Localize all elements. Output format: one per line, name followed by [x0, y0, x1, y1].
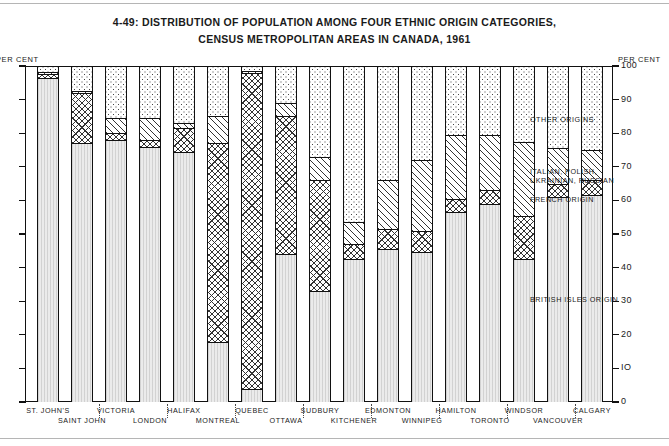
y-tick-left-100 — [19, 65, 26, 66]
bar-segment-other — [309, 66, 332, 157]
left-axis-caption: PER CENT — [0, 55, 39, 64]
bar-segment-british — [241, 389, 264, 402]
legend-label-other: OTHER ORIGINS — [530, 116, 594, 125]
bar-toronto[interactable] — [479, 66, 502, 402]
bar-segment-british — [71, 143, 94, 402]
y-tick-right-90 — [612, 99, 619, 100]
bar-segment-french — [309, 180, 332, 291]
y-tick-left-60 — [19, 200, 26, 201]
bar-segment-french — [377, 229, 400, 249]
title-line-2: CENSUS METROPOLITAN AREAS IN CANADA, 196… — [0, 31, 669, 48]
bar-segment-italian — [343, 222, 366, 244]
bar-segment-italian — [37, 72, 60, 74]
y-tick-right-50 — [612, 233, 619, 234]
bar-edmonton[interactable] — [377, 66, 400, 402]
bar-segment-other — [547, 66, 570, 148]
y-tick-left-30 — [19, 301, 26, 302]
y-tick-left-20 — [19, 334, 26, 335]
y-tick-label-right-40: 40 — [621, 262, 651, 272]
bar-segment-italian — [173, 123, 196, 128]
bar-segment-british — [377, 249, 400, 402]
y-tick-right-100 — [612, 65, 619, 66]
bar-segment-french — [37, 74, 60, 78]
bar-segment-italian — [411, 160, 434, 231]
x-axis-label-calgary: CALGARY — [547, 406, 637, 415]
bar-segment-other — [377, 66, 400, 180]
y-tick-label-right-70: 70 — [621, 161, 651, 171]
bar-segment-french — [479, 190, 502, 203]
bar-segment-french — [241, 73, 264, 389]
bar-segment-italian — [445, 135, 468, 199]
y-tick-left-70 — [19, 166, 26, 167]
bar-segment-other — [445, 66, 468, 135]
bar-segment-other — [207, 66, 230, 116]
y-tick-label-right-20: 20 — [621, 329, 651, 339]
bar-segment-italian — [105, 118, 128, 133]
bar-segment-other — [513, 66, 536, 142]
bar-segment-british — [207, 342, 230, 402]
bar-segment-british — [411, 252, 434, 402]
bar-segment-italian — [377, 180, 400, 229]
y-tick-left-90 — [19, 99, 26, 100]
bar-segment-british — [139, 147, 162, 402]
bar-quebec[interactable] — [241, 66, 264, 402]
y-tick-left-40 — [19, 267, 26, 268]
bar-segment-french — [71, 93, 94, 143]
bar-london[interactable] — [139, 66, 162, 402]
bar-hamilton[interactable] — [445, 66, 468, 402]
y-tick-left-80 — [19, 133, 26, 134]
bar-sudbury[interactable] — [309, 66, 332, 402]
bar-saint-john[interactable] — [71, 66, 94, 402]
legend-label-british: BRITISH ISLES ORIGIN — [530, 296, 618, 305]
page-top-rule — [0, 3, 669, 4]
bar-segment-other — [241, 66, 264, 71]
y-tick-label-right-60: 60 — [621, 194, 651, 204]
y-tick-label-right-0: 0 — [621, 396, 651, 406]
bar-segment-british — [275, 254, 298, 402]
bar-halifax[interactable] — [173, 66, 196, 402]
bar-segment-british — [513, 259, 536, 402]
y-tick-label-right-80: 80 — [621, 127, 651, 137]
legend-label-italian2: UKRAINIAN, RUSSIAN — [530, 177, 614, 186]
y-tick-right-40 — [612, 267, 619, 268]
bar-segment-italian — [207, 116, 230, 143]
bar-segment-other — [173, 66, 196, 123]
bar-segment-british — [37, 78, 60, 402]
bar-segment-italian — [275, 103, 298, 116]
bar-segment-other — [411, 66, 434, 160]
bar-segment-british — [173, 152, 196, 402]
bar-segment-italian — [71, 91, 94, 93]
bar-segment-other — [139, 66, 162, 118]
y-tick-right-70 — [612, 166, 619, 167]
bar-segment-british — [309, 291, 332, 402]
bar-segment-italian — [241, 71, 264, 73]
bar-segment-french — [207, 143, 230, 341]
bar-montreal[interactable] — [207, 66, 230, 402]
plot-area: 00IOIO2020303040405050606070708080909010… — [25, 66, 613, 402]
bar-st-john-s[interactable] — [37, 66, 60, 402]
bar-segment-other — [71, 66, 94, 91]
bar-segment-french — [173, 128, 196, 152]
bar-winnipeg[interactable] — [411, 66, 434, 402]
y-tick-left-10 — [19, 368, 26, 369]
y-tick-right-0 — [612, 401, 619, 402]
bar-segment-french — [275, 116, 298, 254]
bar-segment-british — [105, 140, 128, 402]
bar-segment-french — [445, 199, 468, 212]
bar-segment-italian — [139, 118, 162, 140]
bar-segment-british — [445, 212, 468, 402]
page-bottom-rule — [0, 438, 669, 439]
bar-ottawa[interactable] — [275, 66, 298, 402]
y-tick-left-0 — [19, 401, 26, 402]
bar-segment-french — [411, 231, 434, 253]
bar-segment-italian — [479, 135, 502, 190]
bar-victoria[interactable] — [105, 66, 128, 402]
bar-kitchener[interactable] — [343, 66, 366, 402]
bar-segment-other — [37, 66, 60, 72]
chart-title: 4-49: DISTRIBUTION OF POPULATION AMONG F… — [0, 14, 669, 48]
y-tick-right-10 — [612, 368, 619, 369]
y-tick-label-right-100: 100 — [621, 60, 651, 70]
y-tick-right-60 — [612, 200, 619, 201]
bar-segment-other — [343, 66, 366, 222]
bar-segment-other — [581, 66, 604, 150]
